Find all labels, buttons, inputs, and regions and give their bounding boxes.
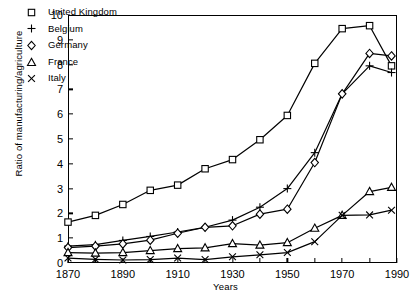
square-marker [20,6,42,19]
y-tick-label-5: 5 [57,133,63,145]
triangle-marker [311,224,319,231]
diamond-marker [311,158,318,166]
diamond-marker [284,205,291,213]
legend-item-label: United Kingdom [42,4,117,21]
square-marker [284,112,290,118]
plot-area: 012345678910 187018901910193019501970199… [68,15,397,263]
x-tick-label-1910: 1910 [165,268,189,280]
legend-item-france: France [20,54,117,71]
legend-item-germany: Germany [20,37,117,54]
square-marker [229,156,235,162]
series-lines [68,15,397,263]
x-tick-label-1990: 1990 [385,268,409,280]
x-axis-title-text: Years [213,281,238,292]
y-tick-label-4: 4 [57,158,63,170]
x-tick-label-1930: 1930 [220,268,244,280]
square-marker [366,22,372,28]
x-axis-title: Years [0,281,415,292]
diamond-marker [256,210,263,218]
y-tick-label-2: 2 [57,207,63,219]
chart-legend: United KingdomBelgiumGermanyFranceItaly [20,4,117,87]
plus-marker [388,69,396,77]
x-marker [20,72,42,85]
x-marker [311,238,318,245]
plus-marker [20,22,42,35]
square-marker [28,9,34,15]
legend-item-united-kingdom: United Kingdom [20,4,117,21]
square-marker [339,25,345,31]
square-marker [92,212,98,218]
y-tick-label-3: 3 [57,183,63,195]
square-marker [120,201,126,207]
plus-marker [27,25,35,33]
triangle-marker [388,183,396,190]
triangle-marker [283,238,291,245]
diamond-marker [201,223,208,231]
y-tick-label-6: 6 [57,108,63,120]
x-tick-label-1870: 1870 [56,268,80,280]
square-marker [147,187,153,193]
square-marker [174,182,180,188]
square-marker [257,137,263,143]
legend-item-label: France [42,54,78,71]
square-marker [312,60,318,66]
square-marker [388,63,394,69]
series-italy [65,207,395,264]
legend-item-belgium: Belgium [20,21,117,38]
y-tick-label-1: 1 [57,232,63,244]
diamond-marker [20,39,42,52]
diamond-marker [174,229,181,237]
legend-item-label: Italy [42,70,66,87]
x-tick-label-1950: 1950 [275,268,299,280]
legend-item-label: Belgium [42,21,83,38]
square-marker [65,219,71,225]
triangle-marker [20,56,42,69]
triangle-marker [27,58,35,65]
legend-item-italy: Italy [20,70,117,87]
square-marker [202,166,208,172]
diamond-marker [229,222,236,230]
diamond-marker [27,41,34,49]
legend-item-label: Germany [42,37,88,54]
x-tick-label-1890: 1890 [111,268,135,280]
triangle-marker [229,239,237,246]
x-marker [28,75,35,82]
diamond-marker [388,52,395,60]
x-tick-label-1970: 1970 [330,268,354,280]
line-chart-figure: Ratio of manufacturing/agriculture 01234… [0,0,415,299]
